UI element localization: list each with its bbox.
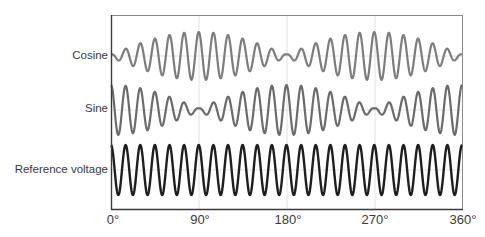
x-tick-180: 180°: [275, 212, 302, 227]
label-sine: Sine: [85, 102, 108, 114]
label-reference-voltage: Reference voltage: [15, 163, 108, 175]
x-tick-270: 270°: [362, 212, 389, 227]
x-tick-360: 360°: [450, 212, 477, 227]
grid: [111, 15, 462, 209]
x-tick-90: 90°: [190, 212, 210, 227]
label-cosine: Cosine: [72, 49, 108, 61]
chart-canvas: [0, 0, 485, 237]
x-tick-0: 0°: [107, 212, 119, 227]
